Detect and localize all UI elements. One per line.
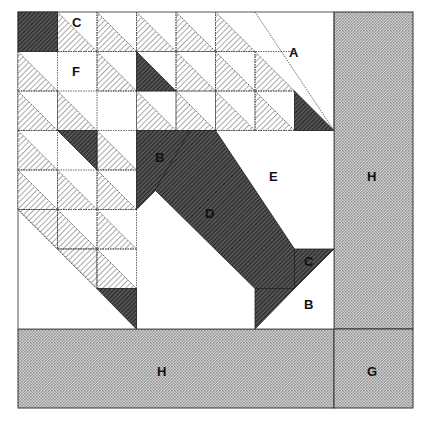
label-e: E [269,169,278,184]
label-h-right: H [367,169,376,184]
label-b-bottom: B [304,297,313,312]
label-f: F [72,64,80,79]
label-h-bottom: H [157,364,166,379]
label-b-top: B [155,150,164,165]
quilt-block-diagram: C F A B E D C B H H G [0,0,426,425]
label-a: A [289,45,299,60]
label-c-bottom: C [304,254,314,269]
label-g: G [367,364,377,379]
border-h-bottom [18,329,334,408]
label-c-top: C [72,15,82,30]
label-d: D [205,206,214,221]
